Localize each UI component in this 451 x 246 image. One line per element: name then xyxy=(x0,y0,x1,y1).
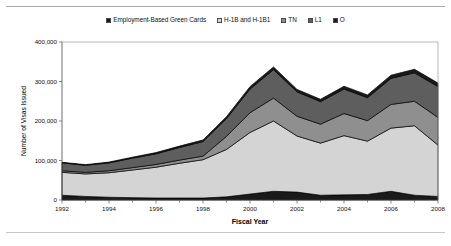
x-tick-label: 1996 xyxy=(149,205,163,212)
plot-area-wrapper: 0100,000200,000300,000400,00019921994199… xyxy=(0,0,451,246)
y-tick-label: 300,000 xyxy=(35,78,58,85)
x-tick-label: 2008 xyxy=(431,205,445,212)
x-tick-label: 2006 xyxy=(384,205,398,212)
y-tick-label: 0 xyxy=(54,196,58,203)
x-tick-label: 2000 xyxy=(243,205,257,212)
chart-figure: Employment-Based Green CardsH-1B and H-1… xyxy=(0,0,451,246)
y-tick-label: 100,000 xyxy=(35,157,58,164)
x-tick-label: 1994 xyxy=(102,205,116,212)
series-areas-group xyxy=(62,67,438,200)
y-tick-label: 400,000 xyxy=(35,38,58,45)
x-tick-label: 2004 xyxy=(337,205,351,212)
y-axis-title: Number of Visas Issued xyxy=(20,86,27,156)
x-tick-label: 1992 xyxy=(55,205,69,212)
x-tick-label: 2002 xyxy=(290,205,304,212)
stacked-area-chart: 0100,000200,000300,000400,00019921994199… xyxy=(0,0,451,246)
x-tick-label: 1998 xyxy=(196,205,210,212)
y-tick-label: 200,000 xyxy=(35,117,58,124)
x-axis-title: Fiscal Year xyxy=(232,218,269,225)
